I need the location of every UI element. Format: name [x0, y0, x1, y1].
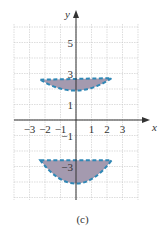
x-tick-label: 1	[89, 123, 95, 135]
y-tick-label: 1	[68, 99, 74, 111]
x-tick-label: 2	[104, 123, 110, 135]
x-tick-label: 3	[120, 123, 126, 135]
figure-caption: (c)	[0, 213, 165, 225]
y-tick-label: 5	[68, 37, 74, 49]
y-tick-label: 3	[68, 68, 74, 80]
x-axis-label: x	[151, 121, 157, 133]
graph: x y −3−2−1123531−1−3	[0, 0, 165, 241]
y-axis-label: y	[64, 8, 70, 20]
x-tick-label: −2	[39, 123, 51, 135]
x-tick-label: −3	[24, 123, 36, 135]
y-axis-arrow-icon	[73, 10, 79, 18]
x-axis-arrow-icon	[142, 117, 150, 123]
y-tick-label: −3	[61, 161, 73, 173]
y-tick-label: −1	[61, 130, 73, 142]
